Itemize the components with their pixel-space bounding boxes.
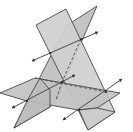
intersection-point-2	[80, 38, 82, 40]
intersection-point-1	[49, 52, 51, 54]
tall-plane-lower	[79, 108, 115, 130]
intersection-point-4	[26, 100, 28, 102]
intersection-point-6	[78, 109, 80, 111]
intersection-point-5	[105, 91, 107, 93]
three-planes-diagram	[0, 0, 133, 132]
intersection-point-3	[61, 81, 63, 83]
